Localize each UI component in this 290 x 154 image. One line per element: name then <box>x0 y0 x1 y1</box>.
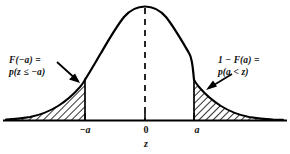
normal-distribution-figure: F(−a) = p(z ≤ −a) 1 − F(a) = p(a < z) −a… <box>0 0 290 154</box>
x-tick-label-a: a <box>182 124 212 135</box>
x-tick-label-neg-a: −a <box>70 124 100 135</box>
right-tail-annotation: 1 − F(a) = p(a < z) <box>218 55 259 78</box>
x-tick-label-zero: 0 <box>131 124 161 135</box>
right-annotation-line-2: p(a < z) <box>218 67 259 79</box>
left-tail-annotation: F(−a) = p(z ≤ −a) <box>9 55 45 78</box>
right-annotation-line-1: 1 − F(a) = <box>218 55 259 67</box>
left-annotation-arrow-icon <box>57 62 80 83</box>
x-axis-label: z <box>131 138 161 149</box>
left-annotation-line-1: F(−a) = <box>9 55 45 67</box>
left-annotation-line-2: p(z ≤ −a) <box>9 67 45 79</box>
normal-curve <box>85 7 194 80</box>
